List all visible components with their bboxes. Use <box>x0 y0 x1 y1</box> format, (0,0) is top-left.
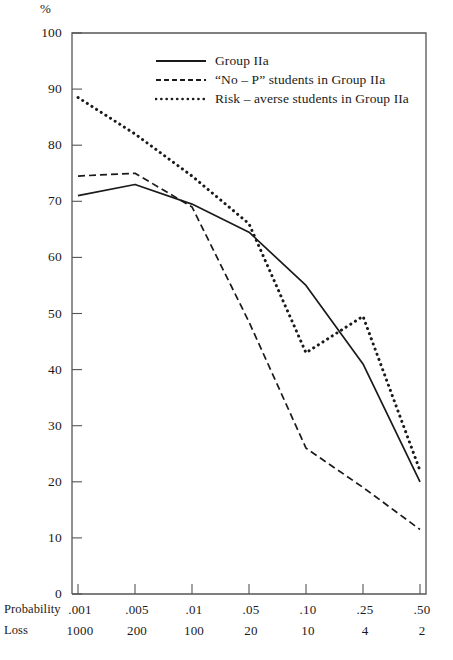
legend-swatch-dashed-icon <box>155 74 207 86</box>
x-axis-tick-label-probability: .005 <box>114 603 160 616</box>
x-axis-row-label-loss: Loss <box>4 624 28 637</box>
x-axis-tick-label-loss: 1000 <box>57 624 103 637</box>
chart-legend: Group IIa “No – P” students in Group IIa… <box>155 52 409 109</box>
x-axis-tick-label-probability: .05 <box>228 603 274 616</box>
x-axis-tick-label-probability: .25 <box>342 603 388 616</box>
series-line-1 <box>78 173 420 529</box>
x-axis-tick-label-probability: .001 <box>57 603 103 616</box>
legend-label-risk-averse-students: Risk – averse students in Group IIa <box>215 91 409 106</box>
chart-figure: % 0102030405060708090100 Group IIa “No –… <box>0 0 453 660</box>
legend-item-risk-averse-students: Risk – averse students in Group IIa <box>155 90 409 107</box>
x-axis-tick-label-probability: .10 <box>285 603 331 616</box>
x-axis-tick-label-probability: .01 <box>171 603 217 616</box>
x-axis-tick-label-loss: 200 <box>114 624 160 637</box>
x-axis-tick-label-loss: 2 <box>399 624 445 637</box>
legend-label-group-iia: Group IIa <box>215 53 269 68</box>
x-axis-tick-label-loss: 4 <box>342 624 388 637</box>
x-axis-tick-label-loss: 100 <box>171 624 217 637</box>
x-axis-row-label-probability: Probability <box>4 603 61 616</box>
x-axis-tick-label-loss: 20 <box>228 624 274 637</box>
legend-label-no-p-students: “No – P” students in Group IIa <box>215 72 385 87</box>
plot-frame <box>72 33 426 594</box>
series-line-2 <box>78 98 420 471</box>
legend-item-no-p-students: “No – P” students in Group IIa <box>155 71 409 88</box>
legend-item-group-iia: Group IIa <box>155 52 409 69</box>
x-axis-tick-label-probability: .50 <box>399 603 445 616</box>
x-axis-tick-label-loss: 10 <box>285 624 331 637</box>
legend-swatch-dotted-icon <box>155 93 207 105</box>
legend-swatch-solid-icon <box>155 55 207 67</box>
